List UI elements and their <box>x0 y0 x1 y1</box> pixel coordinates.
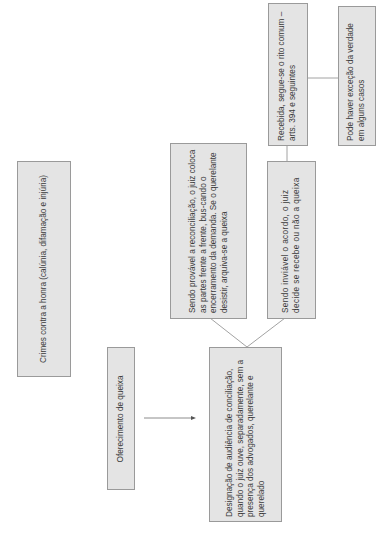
node-designacao-text: Designação de audiência de conciliação, … <box>224 349 266 521</box>
node-provavel: Sendo provável a reconciliação, o juiz c… <box>170 143 247 319</box>
node-inviavel-text: Sendo inviável o acordo, o juiz decide s… <box>281 163 302 317</box>
node-provavel-text: Sendo provável a reconciliação, o juiz c… <box>187 145 229 317</box>
node-excecao-text: Pode haver exceção da verdade em alguns … <box>346 7 367 145</box>
node-inviavel: Sendo inviável o acordo, o juiz decide s… <box>267 161 316 319</box>
line-designacao-to-inviavel <box>247 318 285 347</box>
arrowhead-icon <box>191 416 196 420</box>
node-recebida-text: Recebida, segue-se o rito comum – arts. … <box>277 5 298 145</box>
node-recebida: Recebida, segue-se o rito comum – arts. … <box>268 3 308 146</box>
node-oferecimento: Oferecimento de queixa <box>107 347 135 490</box>
line-designacao-to-provavel <box>210 318 247 347</box>
node-designacao: Designação de audiência de conciliação, … <box>209 347 282 522</box>
node-excecao: Pode haver exceção da verdade em alguns … <box>338 6 376 146</box>
node-crimes: Crimes contra a honra (calúnia, difamaçã… <box>17 161 71 377</box>
node-crimes-text: Crimes contra a honra (calúnia, difamaçã… <box>39 169 50 369</box>
node-oferecimento-text: Oferecimento de queixa <box>116 349 127 489</box>
